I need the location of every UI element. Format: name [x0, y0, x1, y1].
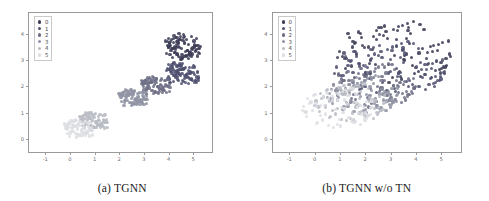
scatter-point	[341, 93, 344, 96]
panel-tgnn: 012345 -101234501234 (a) TGNN	[0, 0, 245, 201]
scatter-point	[168, 90, 171, 93]
scatter-point	[334, 108, 337, 111]
scatter-point	[159, 79, 162, 82]
scatter-point	[402, 83, 405, 86]
scatter-point	[434, 69, 437, 72]
legend-a[interactable]: 012345	[34, 16, 52, 61]
scatter-point	[393, 98, 396, 101]
legend-item-2[interactable]: 2	[37, 32, 48, 38]
scatter-point	[352, 50, 355, 53]
legend-item-3[interactable]: 3	[281, 39, 292, 45]
scatter-point	[392, 28, 395, 31]
legend-item-1[interactable]: 1	[281, 26, 292, 32]
legend-item-0[interactable]: 0	[281, 19, 292, 25]
scatter-point	[349, 86, 352, 89]
y-tick-label: 1	[17, 110, 24, 116]
scatter-point	[71, 130, 74, 133]
scatter-point	[342, 84, 345, 87]
scatter-plot-b[interactable]	[272, 12, 462, 153]
legend-item-4[interactable]: 4	[281, 45, 292, 51]
scatter-point	[370, 89, 373, 92]
scatter-point	[187, 43, 190, 46]
scatter-point	[412, 42, 415, 45]
scatter-point	[403, 51, 406, 54]
y-tick-label: 0	[17, 136, 24, 142]
scatter-point	[346, 94, 349, 97]
scatter-point	[195, 37, 198, 40]
scatter-point	[354, 92, 357, 95]
scatter-point	[121, 91, 124, 94]
scatter-point	[141, 101, 144, 104]
scatter-point	[315, 122, 318, 125]
scatter-point	[153, 77, 156, 80]
scatter-point	[330, 89, 333, 92]
scatter-point	[75, 135, 78, 138]
x-tick-label: 1	[338, 156, 341, 162]
scatter-point	[387, 90, 390, 93]
scatter-point	[427, 83, 430, 86]
scatter-point	[360, 67, 363, 70]
scatter-point	[102, 120, 105, 123]
x-tick-label: 4	[414, 156, 417, 162]
scatter-plot-a[interactable]	[28, 12, 213, 153]
scatter-point	[338, 92, 341, 95]
scatter-point	[444, 57, 447, 60]
y-tick-label: 2	[17, 83, 24, 89]
scatter-point	[345, 119, 348, 122]
scatter-point	[131, 90, 134, 93]
scatter-point	[369, 107, 372, 110]
scatter-point	[406, 95, 409, 98]
y-tick-mark	[26, 60, 28, 61]
scatter-point	[172, 74, 175, 77]
legend-marker-icon	[38, 27, 41, 30]
scatter-point	[437, 43, 440, 46]
x-tick-mark	[144, 153, 145, 155]
scatter-point	[179, 56, 182, 59]
scatter-point	[196, 70, 199, 73]
scatter-point	[441, 58, 444, 61]
scatter-point	[341, 90, 344, 93]
scatter-point	[143, 79, 146, 82]
scatter-point	[351, 79, 354, 82]
legend-marker-icon	[282, 27, 285, 30]
scatter-point	[88, 122, 91, 125]
x-tick-label: 5	[192, 156, 195, 162]
scatter-point	[406, 22, 409, 25]
scatter-point	[382, 102, 385, 105]
x-tick-label: 3	[389, 156, 392, 162]
scatter-point	[378, 33, 381, 36]
x-tick-label: 5	[440, 156, 443, 162]
legend-item-5[interactable]: 5	[281, 52, 292, 58]
scatter-point	[417, 85, 420, 88]
scatter-point	[365, 117, 368, 120]
scatter-point	[182, 36, 185, 39]
panel-caption-a: (a) TGNN	[0, 182, 245, 194]
legend-item-0[interactable]: 0	[37, 19, 48, 25]
scatter-point	[338, 50, 341, 53]
legend-b[interactable]: 012345	[278, 16, 296, 61]
legend-item-1[interactable]: 1	[37, 26, 48, 32]
scatter-point	[412, 20, 415, 23]
scatter-point	[417, 51, 420, 54]
legend-item-4[interactable]: 4	[37, 45, 48, 51]
legend-item-3[interactable]: 3	[37, 39, 48, 45]
scatter-point	[425, 57, 428, 60]
scatter-point	[383, 79, 386, 82]
scatter-point	[358, 77, 361, 80]
y-tick-label: 1	[261, 110, 268, 116]
scatter-point	[342, 79, 345, 82]
scatter-point	[171, 56, 174, 59]
scatter-point	[374, 67, 377, 70]
scatter-point	[383, 65, 386, 68]
scatter-point	[347, 116, 350, 119]
scatter-point	[178, 38, 181, 41]
legend-item-label: 3	[45, 39, 48, 45]
legend-item-2[interactable]: 2	[281, 32, 292, 38]
scatter-point	[189, 71, 192, 74]
scatter-point	[190, 35, 193, 38]
y-tick-mark	[26, 139, 28, 140]
legend-marker-icon	[282, 20, 285, 23]
legend-marker-icon	[282, 33, 285, 36]
scatter-point	[390, 49, 393, 52]
legend-item-5[interactable]: 5	[37, 52, 48, 58]
